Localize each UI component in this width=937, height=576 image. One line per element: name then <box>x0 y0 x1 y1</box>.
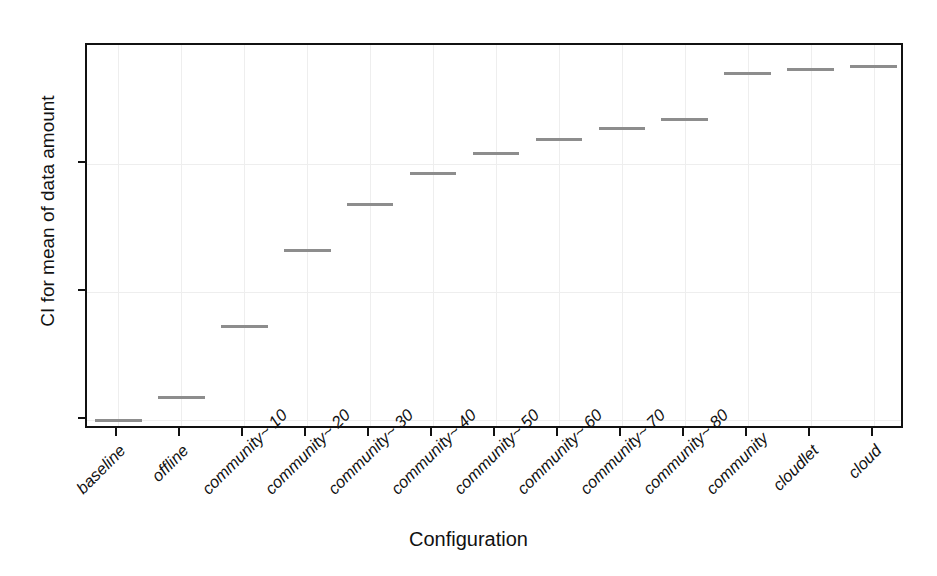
gridline-vertical <box>496 45 497 426</box>
x-tick-mark <box>682 428 684 436</box>
gridline-vertical <box>244 45 245 426</box>
x-tick-mark <box>430 428 432 436</box>
ci-marker <box>536 138 583 141</box>
x-tick-label: community <box>702 441 759 498</box>
x-tick-label: community~ 30 <box>324 441 381 498</box>
gridlines <box>87 45 901 426</box>
gridline-vertical <box>370 45 371 426</box>
gridline-vertical <box>559 45 560 426</box>
gridline-vertical <box>748 45 749 426</box>
x-tick-mark <box>808 428 810 436</box>
ci-marker <box>410 172 457 175</box>
y-axis-title: CI for mean of data amount <box>37 11 59 411</box>
x-tick-label: community~ 60 <box>513 441 570 498</box>
x-axis-title: Configuration <box>0 528 937 551</box>
ci-marker <box>158 396 205 399</box>
x-tick-label: offline <box>136 441 193 498</box>
chart-figure: 02040 CI for mean of data amount baselin… <box>0 0 937 576</box>
gridline-vertical <box>685 45 686 426</box>
y-tick-mark <box>78 289 85 291</box>
ci-marker <box>473 152 520 155</box>
x-tick-label: cloud <box>828 441 885 498</box>
gridline-horizontal <box>87 164 901 165</box>
x-tick-label: community~ 20 <box>261 441 318 498</box>
x-tick-label: community~ 10 <box>198 441 255 498</box>
ci-marker <box>850 65 897 68</box>
x-tick-label: cloudlet <box>765 441 822 498</box>
ci-marker <box>599 127 646 130</box>
gridline-horizontal <box>87 420 901 421</box>
gridline-horizontal <box>87 292 901 293</box>
gridline-vertical <box>433 45 434 426</box>
y-tick-mark <box>78 417 85 419</box>
x-tick-label: community~ 50 <box>450 441 507 498</box>
x-tick-mark <box>556 428 558 436</box>
y-tick-mark <box>78 161 85 163</box>
x-tick-mark <box>367 428 369 436</box>
x-tick-mark <box>745 428 747 436</box>
gridline-vertical <box>811 45 812 426</box>
ci-marker <box>347 203 394 206</box>
x-tick-label: community~ 80 <box>639 441 696 498</box>
x-tick-mark <box>304 428 306 436</box>
gridline-vertical <box>874 45 875 426</box>
gridline-vertical <box>118 45 119 426</box>
gridline-vertical <box>307 45 308 426</box>
ci-marker <box>724 72 771 75</box>
x-tick-mark <box>115 428 117 436</box>
ci-marker <box>661 118 708 121</box>
x-tick-mark <box>871 428 873 436</box>
x-tick-mark <box>241 428 243 436</box>
x-tick-mark <box>619 428 621 436</box>
ci-marker <box>95 419 142 422</box>
ci-marker <box>221 325 268 328</box>
gridline-vertical <box>181 45 182 426</box>
x-tick-label: community~ 70 <box>576 441 633 498</box>
ci-marker <box>284 249 331 252</box>
ci-marker <box>787 68 834 71</box>
ci-marker-series <box>87 45 901 426</box>
x-tick-mark <box>178 428 180 436</box>
plot-area <box>85 43 903 428</box>
x-tick-mark <box>493 428 495 436</box>
x-tick-label: community~ 40 <box>387 441 444 498</box>
gridline-vertical <box>622 45 623 426</box>
